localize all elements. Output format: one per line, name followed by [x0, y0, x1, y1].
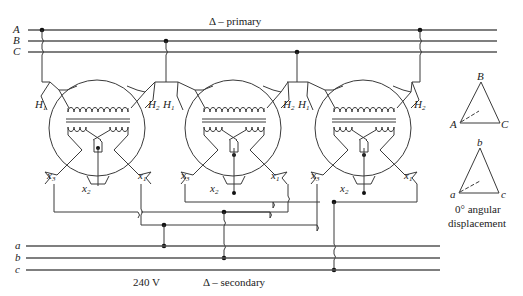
t3-h2-label: H2: [414, 99, 425, 112]
primary-line-label-c: C: [13, 46, 20, 57]
t1-h1-label: H1: [35, 99, 46, 112]
t1-x2-label: x2: [82, 183, 90, 196]
primary-phasor-triangle: [460, 82, 500, 123]
displacement-label-line2: displacement: [448, 218, 506, 229]
phasor-primary-top: B: [477, 71, 484, 82]
secondary-title: Δ – secondary: [203, 277, 265, 288]
primary-taps: [40, 28, 423, 82]
phasor-secondary-right: c: [501, 189, 506, 200]
t2-h2-label: H2: [283, 99, 294, 112]
secondary-line-label-b: b: [15, 252, 21, 263]
phasor-secondary-top: b: [477, 137, 483, 148]
t2-x1-label: x1: [271, 170, 279, 183]
secondary-phasor-triangle: [459, 148, 499, 193]
phasor-secondary-left: a: [450, 189, 456, 200]
t3-x2-label: x2: [340, 183, 348, 196]
t1-x3-label: x3: [47, 170, 55, 183]
phasor-primary-right: C: [501, 119, 508, 130]
t3-x1-label: x1: [404, 170, 412, 183]
secondary-line-label-c: c: [15, 264, 20, 275]
transformer-3: [307, 80, 419, 195]
displacement-label-line1: 0° angular: [455, 204, 501, 215]
primary-title: Δ – primary: [209, 16, 261, 27]
t2-x3-label: x3: [181, 170, 189, 183]
voltage-label: 240 V: [133, 277, 160, 288]
secondary-bus: [26, 246, 440, 270]
secondary-line-label-a: a: [15, 240, 21, 251]
t3-x3-label: x3: [311, 170, 319, 183]
t2-h1-label: H1: [163, 99, 174, 112]
t2-x2-label: x2: [210, 183, 218, 196]
t3-h1-label: H1: [298, 99, 309, 112]
t1-x1-label: x1: [138, 170, 146, 183]
primary-bus: [28, 30, 497, 52]
t1-h2-label: H2: [148, 99, 159, 112]
phasor-primary-left: A: [450, 119, 457, 130]
delta-delta-wiring-diagram: [0, 0, 523, 296]
secondary-wiring: [54, 184, 417, 272]
